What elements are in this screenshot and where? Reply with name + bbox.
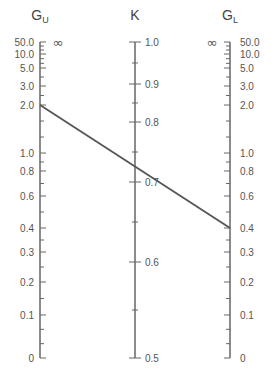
axis-title-g_l: GL: [222, 7, 238, 25]
axis-title-k: K: [130, 7, 140, 23]
nomograph: GU50.010.05.03.02.01.00.80.60.40.30.20.1…: [0, 0, 275, 376]
tick-label: 0: [28, 353, 34, 364]
tick-label: 0.1: [20, 310, 34, 321]
tick-label: 0.6: [145, 257, 159, 268]
tick-label: 0: [240, 353, 246, 364]
tick-label: 0.8: [20, 166, 34, 177]
tick-label: 2.0: [240, 100, 254, 111]
tick-label: 1.0: [145, 37, 159, 48]
tick-label: 0.6: [240, 191, 254, 202]
tick-label: 0.2: [20, 277, 34, 288]
tick-label: 0.1: [240, 310, 254, 321]
tick-label: 5.0: [20, 63, 34, 74]
tick-label: 10.0: [240, 49, 260, 60]
tick-label: 0.6: [20, 191, 34, 202]
tick-label: 10.0: [15, 49, 35, 60]
tick-label: 1.0: [20, 148, 34, 159]
tick-label: 3.0: [240, 81, 254, 92]
tick-label: 1.0: [240, 148, 254, 159]
infinity-symbol: ∞: [53, 35, 64, 50]
tick-label: 3.0: [20, 81, 34, 92]
tick-label: 0.8: [240, 166, 254, 177]
tick-label: 0.9: [145, 79, 159, 90]
axis-title-g_u: GU: [31, 7, 48, 25]
tick-label: 0.4: [20, 223, 34, 234]
infinity-symbol: ∞: [207, 35, 218, 50]
tick-label: 5.0: [240, 63, 254, 74]
tick-label: 0.8: [145, 117, 159, 128]
tick-label: 0.2: [240, 277, 254, 288]
tick-label: 0.3: [20, 247, 34, 258]
tick-label: 0.4: [240, 223, 254, 234]
tick-label: 50.0: [240, 37, 260, 48]
tick-label: 2.0: [20, 100, 34, 111]
tick-label: 0.5: [145, 353, 159, 364]
tick-label: 0.3: [240, 247, 254, 258]
tick-label: 50.0: [15, 37, 35, 48]
